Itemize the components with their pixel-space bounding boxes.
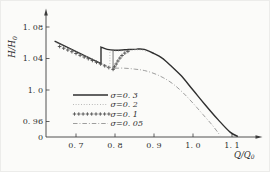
x-tick-label: 1. 1 — [224, 141, 239, 150]
cavitation-head-chart: 0. 70. 80. 91. 01. 11. 081. 041. 00. 960… — [0, 0, 270, 172]
x-axis-arrow-icon — [256, 135, 263, 139]
x-tick-label: 1. 0 — [185, 141, 200, 150]
x-tick-label: 0. 8 — [107, 141, 122, 150]
plus-marker-icon — [120, 54, 124, 58]
y-tick-label: 1. 08 — [23, 23, 43, 32]
plus-marker-icon — [58, 45, 62, 49]
plus-marker-icon — [73, 112, 76, 115]
plus-marker-icon — [118, 56, 122, 60]
y-tick-label: 1. 04 — [23, 54, 43, 63]
plus-marker-icon — [103, 112, 106, 115]
legend-label-sigma-0-2: σ=0. 2 — [111, 100, 138, 109]
legend-label-sigma-0-05: σ=0. 05 — [111, 119, 144, 128]
x-tick-label: 0. 9 — [146, 141, 161, 150]
plus-marker-icon — [123, 51, 127, 55]
y-axis-title: H/H0 — [7, 36, 18, 59]
legend-plus-sample — [73, 112, 111, 115]
plus-marker-icon — [90, 112, 93, 115]
legend-label-sigma-0-3: σ=0. 3 — [111, 91, 138, 100]
y-axis-arrow-icon — [44, 9, 48, 16]
plus-marker-icon — [99, 112, 102, 115]
legend — [73, 95, 111, 124]
y-origin-label: 0 — [38, 133, 43, 142]
x-tick-label: 0. 7 — [68, 141, 83, 150]
y-tick-label: 0. 96 — [23, 117, 43, 126]
curve---0-3 — [55, 41, 238, 136]
plus-marker-icon — [81, 112, 84, 115]
plus-marker-icon — [94, 112, 97, 115]
legend-label-sigma-0-1: σ=0. 1 — [111, 110, 138, 119]
plus-marker-icon — [77, 112, 80, 115]
chart-canvas: 0. 70. 80. 91. 01. 11. 081. 041. 00. 960… — [1, 1, 270, 172]
x-axis-title: Q/Q0 — [234, 150, 255, 161]
plus-marker-icon — [86, 112, 89, 115]
y-tick-label: 1. 0 — [28, 86, 43, 95]
